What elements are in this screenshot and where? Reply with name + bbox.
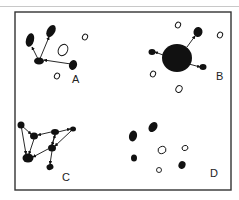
filled-node — [70, 127, 76, 132]
open-node — [181, 145, 188, 152]
filled-node — [34, 58, 44, 65]
filled-node — [147, 120, 160, 134]
filled-node — [51, 129, 59, 135]
filled-node — [128, 130, 139, 143]
filled-node — [44, 23, 57, 38]
panel-a: A — [24, 23, 88, 85]
filled-node — [48, 145, 56, 152]
network-diagram: A B C D — [0, 0, 239, 200]
panel-d: D — [128, 120, 218, 179]
panel-b: B — [149, 21, 224, 93]
filled-node — [177, 160, 186, 170]
open-node — [56, 43, 70, 58]
filled-node — [131, 155, 137, 162]
arrow-edge — [38, 132, 51, 135]
arrow-edge — [39, 37, 49, 61]
arrow-edge — [52, 135, 55, 145]
filled-node — [18, 122, 25, 129]
arrow-edge — [58, 129, 70, 132]
open-node — [149, 70, 156, 78]
arrow-edge — [33, 149, 48, 157]
filled-node — [24, 32, 35, 48]
arrow-edge — [187, 36, 195, 47]
panel-c: C — [18, 122, 77, 184]
arrow-edge — [29, 139, 34, 154]
open-node — [175, 84, 184, 93]
filled-node — [193, 26, 204, 37]
arrow-edge — [50, 151, 52, 164]
open-node — [81, 33, 88, 41]
filled-node — [68, 59, 79, 71]
panel-label: A — [72, 73, 80, 85]
open-node — [216, 31, 223, 39]
arrow-edge — [155, 52, 163, 55]
open-node — [157, 168, 162, 173]
arrow-edge — [44, 60, 71, 64]
panel-label: C — [62, 171, 70, 183]
filled-node — [23, 154, 34, 163]
open-node — [157, 145, 167, 154]
filled-node — [149, 49, 156, 55]
open-node — [174, 21, 181, 29]
panel-label: D — [210, 167, 218, 179]
filled-node — [162, 44, 192, 72]
diagram-frame — [15, 12, 231, 190]
filled-node — [30, 133, 38, 140]
arrow-edge — [189, 64, 200, 67]
open-node — [53, 72, 60, 80]
panel-label: B — [216, 70, 223, 82]
filled-node — [200, 64, 207, 70]
filled-node — [46, 163, 55, 171]
